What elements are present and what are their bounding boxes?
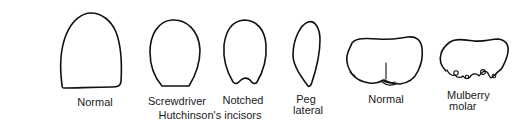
label-screwdriver: Screwdriver [145,95,209,107]
peg-lateral-shape [293,22,320,87]
screwdriver-incisor-shape [150,20,200,86]
normal-incisor-shape [61,13,122,88]
label-hutchinsons-incisors: Hutchinson's incisors [150,109,270,121]
notched-incisor-shape [224,20,266,83]
label-normal-molar: Normal [361,93,411,105]
label-normal-incisor: Normal [70,96,120,108]
mulberry-molar-shape [440,39,508,79]
normal-molar-shape [347,37,423,85]
label-notched: Notched [218,94,268,106]
label-lateral: lateral [291,104,325,116]
label-molar: molar [449,100,489,112]
